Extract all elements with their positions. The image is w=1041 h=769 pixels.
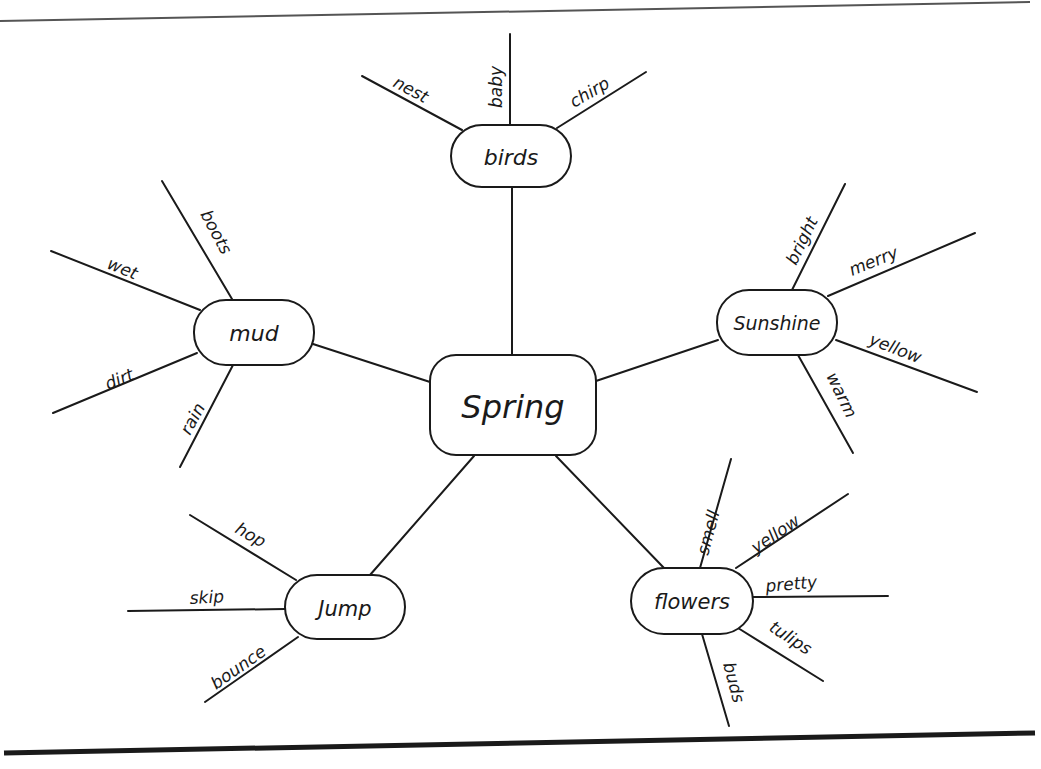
leaf-yellow-flowers: yellow <box>746 510 803 558</box>
leaf-tulips: tulips <box>766 617 816 659</box>
center-label-spring: Spring <box>461 388 564 426</box>
node-label-jump: Jump <box>314 597 371 621</box>
leaf-wet: wet <box>105 253 142 284</box>
word-web-diagram: nest baby chirp birds boots wet dirt rai… <box>0 0 1041 769</box>
leaf-buds: buds <box>719 660 749 705</box>
node-label-sunshine: Sunshine <box>733 312 820 334</box>
top-rule <box>0 2 1030 21</box>
node-label-flowers: flowers <box>654 590 730 614</box>
leaf-skip: skip <box>189 586 224 608</box>
node-flowers-group: smell yellow pretty tulips buds flowers <box>631 459 888 726</box>
node-label-birds: birds <box>484 145 539 170</box>
leaf-dirt: dirt <box>102 364 138 394</box>
node-mud-group: boots wet dirt rain mud <box>51 181 314 467</box>
leaf-hop: hop <box>232 518 270 551</box>
bottom-rule <box>4 733 1035 753</box>
leaf-warm: warm <box>822 369 861 421</box>
node-jump-group: hop skip bounce Jump <box>128 515 405 702</box>
node-birds-group: nest baby chirp birds <box>362 34 646 187</box>
node-label-mud: mud <box>229 321 279 346</box>
leaf-bounce: bounce <box>207 641 270 693</box>
leaf-chirp: chirp <box>566 73 613 112</box>
leaf-smell: smell <box>693 508 724 557</box>
leaf-pretty: pretty <box>764 571 819 596</box>
leaf-merry: merry <box>846 242 902 280</box>
center-node-group: Spring <box>430 355 596 455</box>
node-sunshine-group: bright merry yellow warm Sunshine <box>717 184 977 453</box>
leaf-baby: baby <box>486 65 506 108</box>
